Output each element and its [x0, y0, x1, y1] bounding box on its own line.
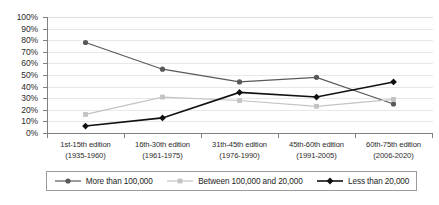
legend-item-2[interactable]: Between 100,000 and 20,000: [166, 176, 302, 186]
gridline: [48, 17, 433, 18]
gridline: [48, 75, 433, 76]
y-axis-tick-label: 60%: [21, 58, 38, 68]
square-marker-icon: [166, 176, 194, 186]
y-axis-tick-label: 70%: [21, 47, 38, 57]
y-axis-tick-label: 10%: [21, 116, 38, 126]
y-axis-tick-label: 40%: [21, 82, 38, 92]
gridline: [48, 110, 433, 111]
y-axis-tick: [43, 87, 47, 88]
x-axis-tick: [278, 133, 279, 138]
chart-legend: More than 100,000Between 100,000 and 20,…: [46, 171, 417, 191]
legend-item-1[interactable]: More than 100,000: [54, 176, 153, 186]
x-axis-tick: [355, 133, 356, 138]
y-axis-tick: [43, 17, 47, 18]
legend-item-3[interactable]: Less than 20,000: [316, 176, 409, 186]
y-axis-tick: [43, 40, 47, 41]
data-point-marker: [65, 178, 70, 183]
gridline: [48, 63, 433, 64]
x-axis-tick: [201, 133, 202, 138]
plot-area: [47, 17, 433, 134]
y-axis-tick-label: 30%: [21, 93, 38, 103]
x-axis-category-label: 60th-75th edition(2006-2020): [366, 140, 421, 161]
x-axis-category-label: 31th-45th edition(1976-1990): [212, 140, 267, 161]
gridline: [48, 52, 433, 53]
x-axis-tick: [432, 133, 433, 138]
y-axis-tick: [43, 121, 47, 122]
gridline: [48, 121, 433, 122]
x-axis-tick: [124, 133, 125, 138]
y-axis-tick-label: 90%: [21, 24, 38, 34]
legend-item-label: Less than 20,000: [348, 177, 409, 186]
data-point-marker: [178, 179, 183, 184]
legend-item-label: Between 100,000 and 20,000: [198, 177, 302, 186]
y-axis-tick-label: 20%: [21, 105, 38, 115]
gridline: [48, 40, 433, 41]
y-axis-tick: [43, 63, 47, 64]
y-axis-tick-label: 80%: [21, 35, 38, 45]
x-axis-category-label: 1st-15th edition(1935-1960): [60, 140, 110, 161]
circle-marker-icon: [54, 176, 82, 186]
y-axis-tick-label: 0%: [26, 128, 38, 138]
y-axis-tick-label: 50%: [21, 70, 38, 80]
data-point-marker: [327, 178, 334, 185]
y-axis-tick-label: 100%: [17, 12, 38, 22]
y-axis: 0%10%20%30%40%50%60%70%80%90%100%: [0, 0, 44, 150]
legend-item-label: More than 100,000: [86, 177, 153, 186]
x-axis-category-label: 16th-30th edition(1961-1975): [135, 140, 190, 161]
x-axis-category-label: 45th-60th edition(1991-2005): [289, 140, 344, 161]
y-axis-tick: [43, 52, 47, 53]
y-axis-tick: [43, 110, 47, 111]
gridline: [48, 98, 433, 99]
y-axis-tick: [43, 29, 47, 30]
y-axis-tick: [43, 75, 47, 76]
x-axis-tick: [47, 133, 48, 138]
gridline: [48, 87, 433, 88]
diamond-marker-icon: [316, 176, 344, 186]
gridline: [48, 29, 433, 30]
line-chart: 0%10%20%30%40%50%60%70%80%90%100% More t…: [0, 0, 439, 205]
y-axis-tick: [43, 98, 47, 99]
